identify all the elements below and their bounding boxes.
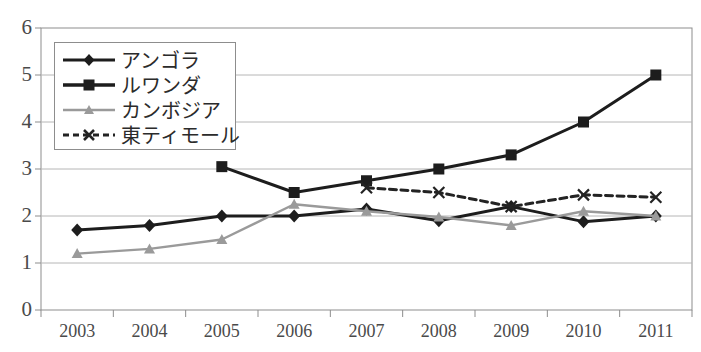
data-point-diamond-icon bbox=[288, 210, 300, 223]
y-tick-label-6: 6 bbox=[4, 17, 32, 38]
legend-item-rwanda: ルワンダ bbox=[61, 72, 227, 97]
series-1 bbox=[216, 70, 661, 199]
x-tick-label-2009: 2009 bbox=[476, 322, 546, 340]
y-tick-label-1: 1 bbox=[4, 252, 32, 273]
series-0 bbox=[71, 200, 662, 237]
y-tick-label-3: 3 bbox=[4, 158, 32, 179]
legend-marker-square-icon bbox=[61, 75, 117, 95]
data-point-square-icon bbox=[650, 70, 661, 81]
legend-label-east-timor: 東ティモール bbox=[117, 120, 240, 149]
series-3 bbox=[361, 182, 661, 212]
data-point-diamond-icon bbox=[144, 219, 156, 232]
data-point-square-icon bbox=[216, 161, 227, 172]
y-tick-label-2: 2 bbox=[4, 205, 32, 226]
legend-marker-cross-dashed-icon bbox=[61, 125, 117, 145]
y-tick-label-5: 5 bbox=[4, 64, 32, 85]
data-point-square-icon bbox=[289, 187, 300, 198]
data-point-diamond-icon bbox=[578, 215, 590, 228]
x-tick-label-2005: 2005 bbox=[187, 322, 257, 340]
series-2 bbox=[72, 199, 662, 258]
y-tick-label-4: 4 bbox=[4, 111, 32, 132]
x-tick-label-2004: 2004 bbox=[115, 322, 185, 340]
x-tick-label-2007: 2007 bbox=[332, 322, 402, 340]
legend-item-east-timor: 東ティモール bbox=[61, 122, 227, 147]
data-point-square-icon bbox=[433, 164, 444, 175]
series-line bbox=[222, 75, 656, 193]
line-chart: 0123456 20032004200520062007200820092010… bbox=[0, 0, 701, 352]
x-tick-label-2010: 2010 bbox=[549, 322, 619, 340]
chart-legend: アンゴラ ルワンダ カンボジア 東ティモール bbox=[54, 42, 236, 150]
x-tick-label-2003: 2003 bbox=[42, 322, 112, 340]
data-point-square-icon bbox=[506, 149, 517, 160]
x-tick-label-2008: 2008 bbox=[404, 322, 474, 340]
legend-item-angola: アンゴラ bbox=[61, 47, 227, 72]
legend-item-cambodia: カンボジア bbox=[61, 97, 227, 122]
data-point-square-icon bbox=[578, 117, 589, 128]
legend-marker-triangle-icon bbox=[61, 100, 117, 120]
data-point-diamond-icon bbox=[216, 210, 228, 223]
legend-marker-diamond-icon bbox=[61, 50, 117, 70]
x-tick-label-2011: 2011 bbox=[621, 322, 691, 340]
x-tick-label-2006: 2006 bbox=[259, 322, 329, 340]
y-tick-label-0: 0 bbox=[4, 299, 32, 320]
data-point-diamond-icon bbox=[71, 224, 83, 237]
